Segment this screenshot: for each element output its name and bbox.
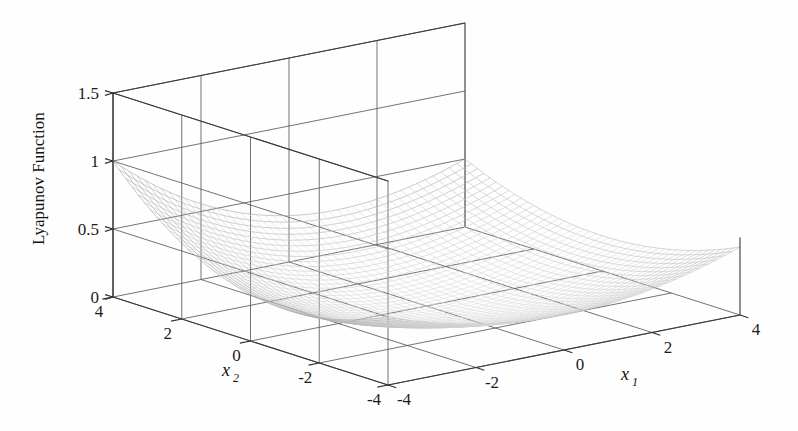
tick-label: 2 — [664, 338, 673, 357]
tick-label: 1 — [91, 152, 100, 171]
axis-lines — [113, 93, 740, 385]
tick-label: 0 — [576, 355, 585, 374]
lyapunov-surface-mesh — [113, 159, 740, 328]
tick-label: 2 — [164, 324, 173, 343]
svg-text:x: x — [221, 360, 230, 380]
tick-label: 1.5 — [78, 84, 99, 103]
svg-text:1: 1 — [632, 375, 638, 389]
svg-text:2: 2 — [233, 371, 239, 385]
tick-label: -4 — [397, 390, 412, 409]
tick-label: -2 — [298, 368, 312, 387]
tick-marks — [102, 91, 748, 388]
tick-labels: 00.511.5420-2-4-4-2024 — [78, 84, 761, 409]
lyapunov-surface-figure: 00.511.5420-2-4-4-2024 Lyapunov Function… — [0, 0, 798, 431]
x1-axis-title: x 1 — [620, 364, 638, 389]
tick-label: 0 — [232, 346, 241, 365]
tick-label: -2 — [485, 373, 499, 392]
tick-label: -4 — [367, 390, 382, 409]
z-axis-title: Lyapunov Function — [29, 112, 48, 245]
tick-label: 4 — [752, 320, 761, 339]
surface-plot-svg: 00.511.5420-2-4-4-2024 Lyapunov Function… — [0, 0, 798, 431]
tick-label: 4 — [95, 302, 104, 321]
svg-text:x: x — [620, 364, 629, 384]
tick-label: 0.5 — [78, 220, 99, 239]
